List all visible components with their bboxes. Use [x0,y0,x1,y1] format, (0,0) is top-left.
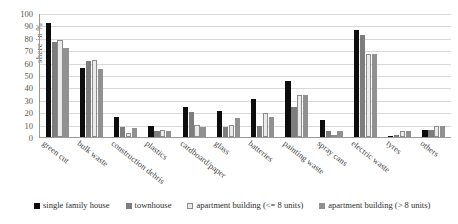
bar [148,126,153,137]
bar [257,126,262,137]
bar [360,35,365,137]
bar-group [46,14,69,137]
bar [86,61,91,137]
bar [440,126,445,137]
bar [434,126,439,137]
bar [366,54,371,137]
y-tick-90: 90 [25,22,34,31]
y-tick-30: 30 [25,97,34,106]
bar [120,127,125,137]
legend-swatch-icon [187,203,193,209]
bar [251,99,256,137]
legend-label: townhouse [135,201,172,210]
bar [98,69,103,137]
chart-legend: single family housetownhouseapartment bu… [34,201,454,210]
bar [337,131,342,137]
bar [406,131,411,137]
bar-group [285,14,308,137]
x-tick-label: bulk waste [75,139,109,169]
bar [52,42,57,137]
legend-item[interactable]: apartment building (> 8 units) [319,201,430,210]
bar [326,131,331,137]
x-tick-label: green cut [41,139,71,165]
y-tick-50: 50 [25,72,34,81]
bar [92,60,97,137]
x-tick-label: tyres [384,139,403,156]
y-tick-80: 80 [25,35,34,44]
bar-group [251,14,274,137]
bar [354,30,359,137]
y-tick-100: 100 [20,10,33,19]
bar [235,118,240,137]
y-tick-10: 10 [25,121,34,130]
bar [63,48,68,137]
bar-group [183,14,206,137]
legend-swatch-icon [319,203,325,209]
legend-swatch-icon [34,203,40,209]
legend-item[interactable]: single family house [34,201,110,210]
bar [291,107,296,137]
y-tick-0: 0 [29,134,33,143]
bar [331,135,336,137]
bar-group [388,14,411,137]
bar [132,128,137,137]
bar [57,40,62,137]
legend-item[interactable]: apartment building (<= 8 units) [187,201,303,210]
bar [229,125,234,137]
bar [263,113,268,137]
bars-layer [40,14,451,137]
bar [269,117,274,137]
bar [223,127,228,137]
bar [428,130,433,137]
bar [372,54,377,137]
x-tick-label: batteries [247,139,275,164]
bar [80,68,85,137]
legend-label: apartment building (<= 8 units) [196,201,303,210]
bar-group [148,14,171,137]
bar [126,133,131,137]
bar [46,23,51,137]
plot-area [39,14,451,138]
bar [320,120,325,137]
legend-swatch-icon [126,203,132,209]
legend-label: single family house [43,201,110,210]
y-tick-60: 60 [25,59,34,68]
bar [394,135,399,137]
y-axis-tick-labels: 0102030405060708090100 [0,14,36,138]
bar-group [422,14,445,137]
bar [200,127,205,137]
bar [285,81,290,137]
x-axis-tick-labels: green cutbulk wasteconstruction debrispl… [39,139,451,191]
bar [297,95,302,137]
y-tick-20: 20 [25,109,34,118]
bar [303,95,308,137]
bar-group [114,14,137,137]
x-tick-label: others [418,139,440,159]
x-tick-label: glass [212,139,231,157]
bar [422,130,427,137]
y-tick-70: 70 [25,47,34,56]
bar-chart: share in % 0102030405060708090100 green … [0,0,458,224]
bar [189,112,194,137]
legend-label: apartment building (> 8 units) [328,201,430,210]
bar [400,131,405,137]
bar [194,125,199,137]
bar [183,107,188,137]
y-tick-40: 40 [25,84,34,93]
x-tick-label: plastics [144,139,170,162]
bar-group [80,14,103,137]
legend-item[interactable]: townhouse [126,201,172,210]
bar [166,131,171,137]
bar-group [217,14,240,137]
bar [217,111,222,137]
bar-group [320,14,343,137]
bar [114,117,119,137]
bar [388,136,393,137]
bar [160,130,165,137]
bar-group [354,14,377,137]
bar [154,131,159,137]
